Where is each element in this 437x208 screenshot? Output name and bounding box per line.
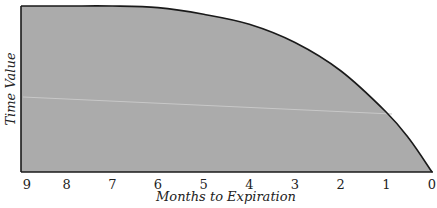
x-tick-label: 2 <box>337 177 345 192</box>
plot-area <box>21 6 433 172</box>
x-axis-label: Months to Expiration <box>155 189 296 204</box>
x-tick-label: 8 <box>63 177 71 192</box>
x-tick-label: 1 <box>382 177 390 192</box>
y-axis-label: Time Value <box>3 52 18 125</box>
x-tick-label: 9 <box>23 177 31 192</box>
x-tick-label: 0 <box>428 177 436 192</box>
time-value-area <box>21 6 432 172</box>
x-tick-label: 7 <box>108 177 116 192</box>
time-value-chart: 9876543210 Months to Expiration Time Val… <box>0 0 437 208</box>
